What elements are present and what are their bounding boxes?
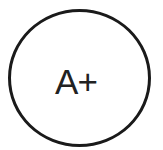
grade-label: A+ (0, 62, 152, 102)
